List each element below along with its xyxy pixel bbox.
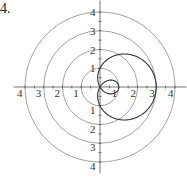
tick-label-left: 3 <box>36 87 42 99</box>
tick-label-right: 4 <box>168 87 174 99</box>
tick-label-left: 4 <box>17 87 23 99</box>
tick-label-down: 1 <box>90 104 96 116</box>
tick-label-up: 2 <box>90 44 96 56</box>
tick-label-up: 3 <box>90 25 96 37</box>
tick-label-right: 2 <box>131 87 137 99</box>
tick-label-down: 2 <box>90 123 96 135</box>
tick-label-left: 1 <box>73 87 79 99</box>
polar-plot: 1234123412341234 <box>0 0 187 181</box>
tick-label-down: 4 <box>90 160 96 172</box>
tick-label-up: 1 <box>90 62 96 74</box>
tick-label-down: 3 <box>90 141 96 153</box>
tick-label-left: 2 <box>55 87 61 99</box>
tick-label-up: 4 <box>90 6 96 18</box>
